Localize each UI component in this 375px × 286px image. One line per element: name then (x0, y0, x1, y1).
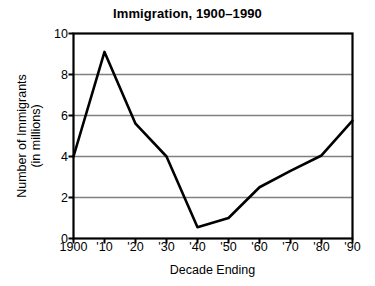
chart-figure: Immigration, 1900–1990 Number of Immigra… (0, 0, 375, 286)
plot-border (74, 34, 353, 239)
gridlines (74, 75, 353, 198)
plot-area (0, 0, 375, 286)
data-series-line (74, 52, 353, 227)
